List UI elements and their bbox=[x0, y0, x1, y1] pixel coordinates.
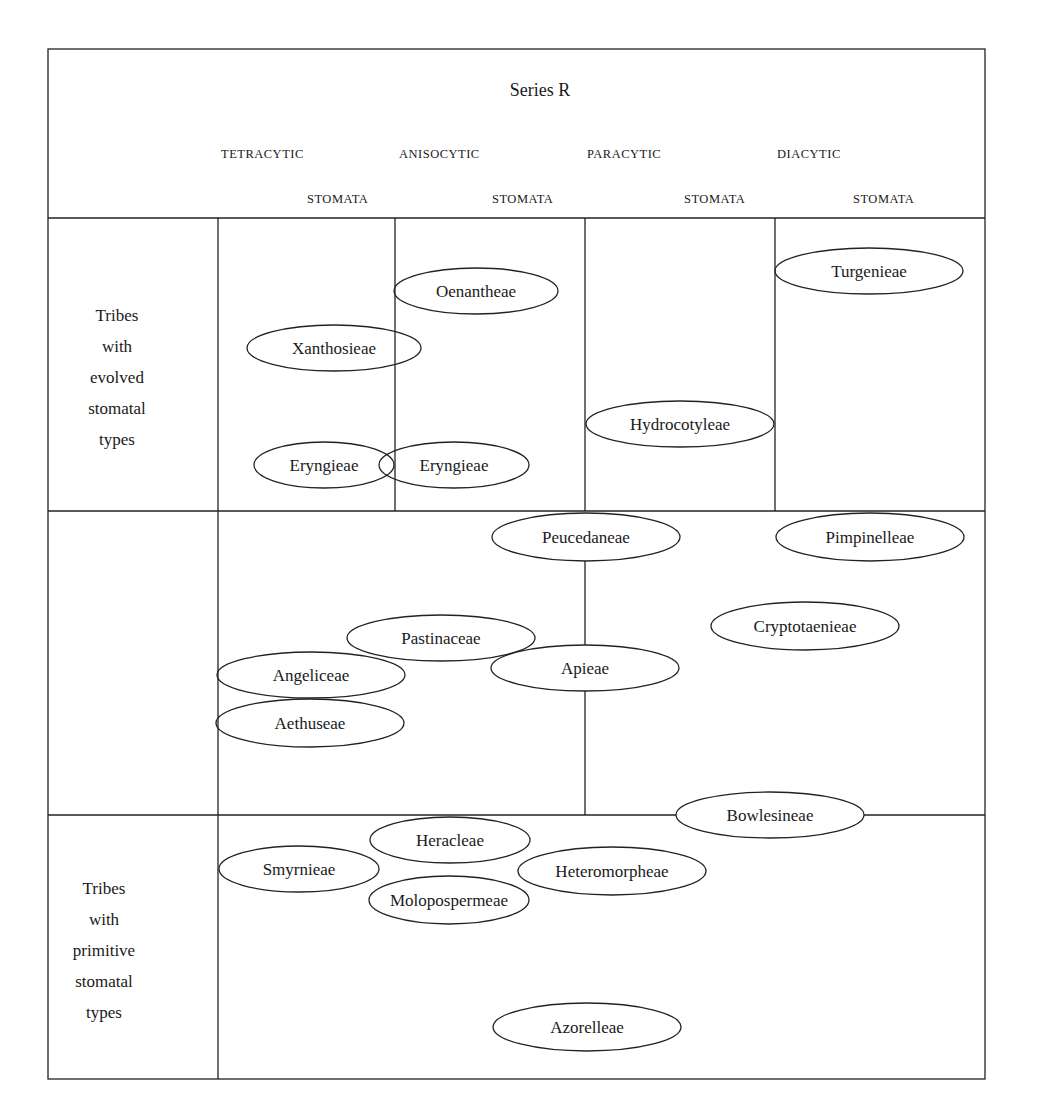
column-subheader-stomata-3: STOMATA bbox=[684, 192, 745, 206]
column-header-diacytic: DIACYTIC bbox=[777, 147, 841, 161]
tribe-node-azorelleae: Azorelleae bbox=[493, 1003, 681, 1051]
tribe-label: Peucedaneae bbox=[542, 528, 630, 547]
column-subheader-stomata-2: STOMATA bbox=[492, 192, 553, 206]
tribe-node-peucedaneae: Peucedaneae bbox=[492, 513, 680, 561]
tribe-node-heteromorpheae: Heteromorpheae bbox=[518, 847, 706, 895]
tribe-node-turgenieae: Turgenieae bbox=[775, 248, 963, 294]
row-label-line: with bbox=[89, 910, 120, 929]
tribe-label: Pimpinelleae bbox=[826, 528, 915, 547]
column-header-paracytic: PARACYTIC bbox=[587, 147, 661, 161]
tribe-node-hydrocotyleae: Hydrocotyleae bbox=[586, 401, 774, 447]
tribe-label: Molopospermeae bbox=[390, 891, 508, 910]
tribe-node-angeliceae: Angeliceae bbox=[217, 652, 405, 698]
tribe-node-apieae: Apieae bbox=[491, 645, 679, 691]
column-header-anisocytic: ANISOCYTIC bbox=[399, 147, 480, 161]
tribe-label: Heteromorpheae bbox=[555, 862, 668, 881]
tribe-label: Aethuseae bbox=[275, 714, 346, 733]
tribe-node-eryngieae: Eryngieae bbox=[379, 442, 529, 488]
tribe-label: Hydrocotyleae bbox=[630, 415, 730, 434]
column-header-tetracytic: TETRACYTIC bbox=[221, 147, 304, 161]
tribe-node-pimpinelleae: Pimpinelleae bbox=[776, 513, 964, 561]
row-label-line: evolved bbox=[90, 368, 144, 387]
column-subheader-stomata-4: STOMATA bbox=[853, 192, 914, 206]
row-label-line: Tribes bbox=[96, 306, 139, 325]
row-label-primitive: Tribes with primitive stomatal types bbox=[73, 879, 135, 1022]
tribe-label: Heracleae bbox=[416, 831, 484, 850]
tribe-label: Eryngieae bbox=[420, 456, 489, 475]
tribe-node-eryngieae: Eryngieae bbox=[254, 442, 394, 488]
tribe-label: Angeliceae bbox=[273, 666, 349, 685]
tribe-node-smyrnieae: Smyrnieae bbox=[219, 846, 379, 892]
tribe-node-cryptotaenieae: Cryptotaenieae bbox=[711, 602, 899, 650]
tribe-label: Oenantheae bbox=[436, 282, 516, 301]
tribe-label: Cryptotaenieae bbox=[754, 617, 857, 636]
tribe-label: Eryngieae bbox=[290, 456, 359, 475]
tribe-node-heracleae: Heracleae bbox=[370, 817, 530, 863]
row-label-line: with bbox=[102, 337, 133, 356]
tribe-node-pastinaceae: Pastinaceae bbox=[347, 615, 535, 661]
stomatal-types-diagram: Series R TETRACYTIC ANISOCYTIC PARACYTIC… bbox=[0, 0, 1037, 1119]
tribe-nodes: OenantheaeTurgenieaeXanthosieaeHydrocoty… bbox=[216, 248, 964, 1051]
row-label-line: types bbox=[99, 430, 135, 449]
tribe-label: Xanthosieae bbox=[292, 339, 376, 358]
tribe-label: Azorelleae bbox=[550, 1018, 624, 1037]
tribe-label: Bowlesineae bbox=[727, 806, 814, 825]
tribe-node-molopospermeae: Molopospermeae bbox=[369, 876, 529, 924]
tribe-label: Apieae bbox=[561, 659, 609, 678]
row-label-line: stomatal bbox=[88, 399, 146, 418]
tribe-node-oenantheae: Oenantheae bbox=[394, 268, 558, 314]
tribe-node-aethuseae: Aethuseae bbox=[216, 699, 404, 747]
tribe-node-bowlesineae: Bowlesineae bbox=[676, 792, 864, 838]
series-title: Series R bbox=[510, 80, 571, 100]
tribe-label: Turgenieae bbox=[831, 262, 907, 281]
row-label-evolved: Tribes with evolved stomatal types bbox=[88, 306, 146, 449]
tribe-label: Pastinaceae bbox=[401, 629, 480, 648]
row-label-line: Tribes bbox=[83, 879, 126, 898]
row-label-line: types bbox=[86, 1003, 122, 1022]
row-label-line: stomatal bbox=[75, 972, 133, 991]
row-label-line: primitive bbox=[73, 941, 135, 960]
column-subheader-stomata-1: STOMATA bbox=[307, 192, 368, 206]
tribe-label: Smyrnieae bbox=[263, 860, 336, 879]
